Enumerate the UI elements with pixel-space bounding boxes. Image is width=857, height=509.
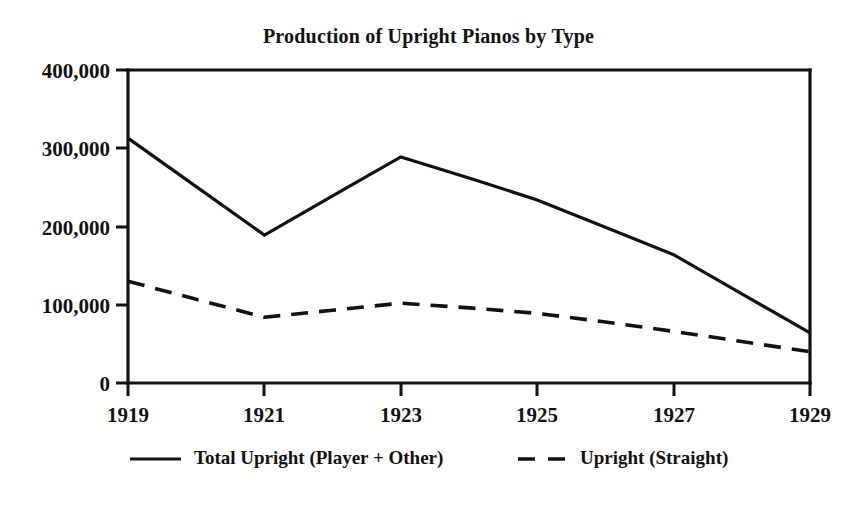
chart-figure: Production of Upright Pianos by Type 400…	[0, 0, 857, 509]
legend-label-upright-straight: Upright (Straight)	[580, 447, 728, 469]
x-tick-marks	[128, 383, 810, 396]
series-line-upright-straight	[128, 281, 810, 351]
x-tick-labels: 1919 1921 1923 1925 1927 1929	[107, 403, 831, 427]
y-tick-label: 200,000	[42, 216, 110, 240]
x-tick-label: 1927	[653, 403, 695, 427]
chart-legend: Total Upright (Player + Other) Upright (…	[130, 447, 728, 469]
chart-plot-area: 400,000 300,000 200,000 100,000 0 1919 1…	[0, 0, 857, 509]
y-tick-labels: 400,000 300,000 200,000 100,000 0	[42, 59, 110, 396]
y-tick-label: 300,000	[42, 137, 110, 161]
y-tick-label: 0	[100, 372, 111, 396]
series-line-total-upright	[128, 138, 810, 333]
y-tick-marks	[116, 70, 128, 383]
x-tick-label: 1919	[107, 403, 149, 427]
legend-label-total-upright: Total Upright (Player + Other)	[194, 447, 443, 469]
y-tick-label: 100,000	[42, 294, 110, 318]
x-tick-label: 1923	[380, 403, 422, 427]
y-tick-label: 400,000	[42, 59, 110, 83]
x-tick-label: 1929	[789, 403, 831, 427]
x-tick-label: 1921	[243, 403, 285, 427]
x-tick-label: 1925	[516, 403, 558, 427]
